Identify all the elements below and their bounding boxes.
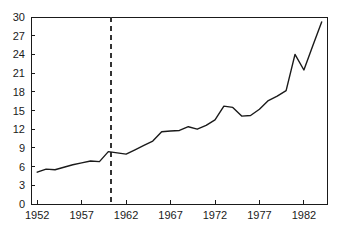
x-axis-ticks: 1952195719621967197219771982 xyxy=(25,200,316,221)
x-tick-label: 1982 xyxy=(292,209,316,221)
y-tick-label: 30 xyxy=(13,11,25,23)
chart-container: 036912151821242730 195219571962196719721… xyxy=(0,0,338,233)
data-series-group xyxy=(37,22,321,172)
y-tick-label: 24 xyxy=(13,48,25,60)
x-tick-label: 1957 xyxy=(69,209,93,221)
series-line-series-1 xyxy=(37,22,321,172)
y-tick-label: 3 xyxy=(19,179,25,191)
x-tick-label: 1952 xyxy=(25,209,49,221)
plot-frame xyxy=(31,17,327,204)
x-tick-label: 1972 xyxy=(203,209,227,221)
y-tick-label: 9 xyxy=(19,142,25,154)
x-tick-label: 1977 xyxy=(247,209,271,221)
x-tick-label: 1962 xyxy=(114,209,138,221)
y-tick-label: 18 xyxy=(13,86,25,98)
x-tick-label: 1967 xyxy=(158,209,182,221)
y-tick-label: 21 xyxy=(13,67,25,79)
y-axis-ticks: 036912151821242730 xyxy=(13,11,35,210)
axes-group xyxy=(31,17,327,204)
y-tick-label: 6 xyxy=(19,161,25,173)
y-tick-label: 27 xyxy=(13,30,25,42)
y-tick-label: 15 xyxy=(13,105,25,117)
y-tick-label: 12 xyxy=(13,123,25,135)
line-chart: 036912151821242730 195219571962196719721… xyxy=(0,0,338,233)
